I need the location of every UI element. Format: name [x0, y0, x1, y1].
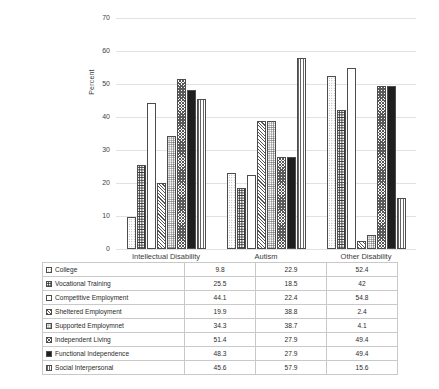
- legend-label-cell: College: [43, 263, 185, 277]
- x-axis-tick: Intellectual Disability: [116, 252, 216, 261]
- bar: [177, 79, 186, 249]
- bar: [387, 86, 396, 249]
- legend-swatch-icon: [46, 309, 52, 315]
- series-value-table: College9.822.952.4Vocational Training25.…: [42, 262, 398, 375]
- legend-swatch-icon: [46, 295, 52, 301]
- bar: [357, 241, 366, 249]
- legend-label: College: [55, 266, 77, 273]
- table-value-cell: 51.4: [185, 333, 256, 347]
- y-axis-tick: 70: [86, 14, 110, 21]
- legend-label-cell: Vocational Training: [43, 277, 185, 291]
- legend-label-cell: Social Interpersonal: [43, 361, 185, 375]
- y-axis-tick: 20: [86, 179, 110, 186]
- bar-group: [316, 18, 416, 249]
- table-value-cell: 45.6: [185, 361, 256, 375]
- table-value-cell: 54.8: [327, 291, 398, 305]
- data-table: College9.822.952.4Vocational Training25.…: [42, 262, 398, 375]
- bar: [257, 121, 266, 249]
- table-row: Functional Independence48.327.949.4: [43, 347, 398, 361]
- bar: [157, 183, 166, 249]
- table-row: Sheltered Employment19.938.82.4: [43, 305, 398, 319]
- legend-swatch-icon: [46, 323, 52, 329]
- table-value-cell: 34.3: [185, 319, 256, 333]
- table-value-cell: 27.9: [256, 333, 327, 347]
- bar: [187, 90, 196, 249]
- table-value-cell: 2.4: [327, 305, 398, 319]
- table-value-cell: 15.6: [327, 361, 398, 375]
- table-value-cell: 49.4: [327, 347, 398, 361]
- table-value-cell: 48.3: [185, 347, 256, 361]
- bar: [167, 136, 176, 249]
- bar: [327, 76, 336, 249]
- bar: [237, 188, 246, 249]
- legend-label-cell: Competitive Employment: [43, 291, 185, 305]
- y-axis-tick: 60: [86, 47, 110, 54]
- table-value-cell: 9.8: [185, 263, 256, 277]
- bar: [347, 68, 356, 249]
- table-row: Independent Living51.427.949.4: [43, 333, 398, 347]
- legend-label-cell: Supported Employmnet: [43, 319, 185, 333]
- table-value-cell: 49.4: [327, 333, 398, 347]
- table-row: Social Interpersonal45.657.915.6: [43, 361, 398, 375]
- y-axis-tick: 0: [86, 245, 110, 252]
- x-axis-labels: Intellectual DisabilityAutismOther Disab…: [116, 252, 416, 261]
- bar: [247, 175, 256, 249]
- legend-label: Supported Employmnet: [55, 322, 124, 329]
- table-value-cell: 57.9: [256, 361, 327, 375]
- plot-area: Percent 010203040506070 Intellectual Dis…: [0, 0, 439, 270]
- gridline: [116, 249, 416, 250]
- bar: [367, 235, 376, 249]
- legend-label: Sheltered Employment: [55, 308, 122, 315]
- table-value-cell: 44.1: [185, 291, 256, 305]
- table-value-cell: 22.4: [256, 291, 327, 305]
- legend-label: Functional Independence: [55, 350, 129, 357]
- legend-label: Independent Living: [55, 336, 111, 343]
- bar: [337, 110, 346, 249]
- table-row: Supported Employmnet34.338.74.1: [43, 319, 398, 333]
- legend-label-cell: Independent Living: [43, 333, 185, 347]
- y-axis-tick: 10: [86, 212, 110, 219]
- table-value-cell: 42: [327, 277, 398, 291]
- table-value-cell: 25.5: [185, 277, 256, 291]
- bar: [197, 99, 206, 249]
- bar: [127, 217, 136, 249]
- table-row: Vocational Training25.518.542: [43, 277, 398, 291]
- y-axis-tick: 40: [86, 113, 110, 120]
- legend-swatch-icon: [46, 337, 52, 343]
- table-row: Competitive Employment44.122.454.8: [43, 291, 398, 305]
- legend-label: Social Interpersonal: [55, 364, 113, 371]
- bar-group: [216, 18, 316, 249]
- chart-figure: Percent 010203040506070 Intellectual Dis…: [0, 0, 439, 389]
- table-value-cell: 27.9: [256, 347, 327, 361]
- table-row: College9.822.952.4: [43, 263, 398, 277]
- legend-label-cell: Sheltered Employment: [43, 305, 185, 319]
- legend-swatch-icon: [46, 351, 52, 357]
- table-value-cell: 52.4: [327, 263, 398, 277]
- legend-label: Competitive Employment: [55, 294, 128, 301]
- bars-container: [116, 18, 416, 249]
- bar-group: [116, 18, 216, 249]
- table-value-cell: 4.1: [327, 319, 398, 333]
- table-value-cell: 19.9: [185, 305, 256, 319]
- bar: [277, 157, 286, 249]
- x-axis-tick: Other Disability: [316, 252, 416, 261]
- bar: [147, 103, 156, 249]
- bar: [297, 58, 306, 249]
- bar: [397, 198, 406, 249]
- x-axis-tick: Autism: [216, 252, 316, 261]
- bar: [377, 86, 386, 249]
- table-value-cell: 38.8: [256, 305, 327, 319]
- table-value-cell: 18.5: [256, 277, 327, 291]
- bar: [287, 157, 296, 249]
- legend-label: Vocational Training: [55, 280, 111, 287]
- legend-swatch-icon: [46, 267, 52, 273]
- y-axis-tick: 50: [86, 80, 110, 87]
- table-value-cell: 38.7: [256, 319, 327, 333]
- legend-swatch-icon: [46, 365, 52, 371]
- bar: [227, 173, 236, 249]
- y-axis-tick: 30: [86, 146, 110, 153]
- bar: [267, 121, 276, 249]
- bar: [137, 165, 146, 249]
- legend-label-cell: Functional Independence: [43, 347, 185, 361]
- legend-swatch-icon: [46, 281, 52, 287]
